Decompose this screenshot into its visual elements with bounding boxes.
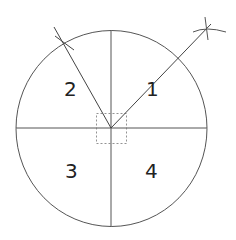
quadrant-label-3: 3	[65, 159, 78, 183]
construction-mark-right	[205, 17, 208, 40]
quadrant-label-2: 2	[64, 77, 77, 101]
circle-diagram: 2 1 3 4	[0, 0, 236, 240]
ray-quadrant-1	[111, 24, 211, 128]
quadrant-label-4: 4	[145, 159, 158, 183]
construction-arc-right	[193, 29, 226, 32]
quadrant-label-1: 1	[146, 77, 159, 101]
